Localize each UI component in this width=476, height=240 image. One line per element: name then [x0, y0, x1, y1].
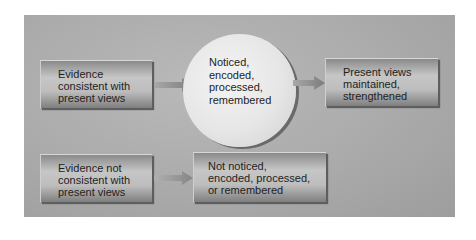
arrow-noticed-to-maintained [293, 76, 325, 90]
node-noticed-label: Noticed, encoded, processed, remembered [209, 56, 271, 106]
node-views-maintained: Present views maintained, strengthened [325, 58, 438, 106]
arrow-shape [154, 171, 193, 185]
node-evidence-inconsistent-label: Evidence not consistent with present vie… [58, 162, 130, 198]
node-not-noticed: Not noticed, encoded, processed, or reme… [193, 152, 326, 202]
node-evidence-consistent-label: Evidence consistent with present views [58, 68, 130, 104]
arrow-shape [293, 76, 325, 90]
node-noticed: Noticed, encoded, processed, remembered [183, 34, 296, 147]
arrow-inconsistent-to-not-noticed [154, 171, 193, 185]
node-evidence-consistent: Evidence consistent with present views [40, 60, 152, 108]
node-evidence-inconsistent: Evidence not consistent with present vie… [40, 154, 152, 202]
node-not-noticed-label: Not noticed, encoded, processed, or reme… [208, 160, 310, 196]
node-views-maintained-label: Present views maintained, strengthened [343, 66, 411, 102]
